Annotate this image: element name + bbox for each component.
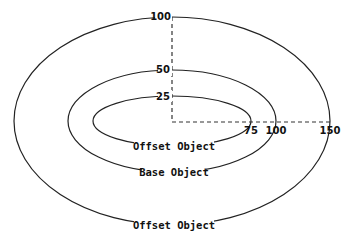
tick-75-horizontal: 75 <box>244 125 258 136</box>
tick-100-vertical: 100 <box>150 11 171 22</box>
tick-25-vertical: 25 <box>156 91 170 102</box>
inner-offset-label: Offset Object <box>133 140 215 152</box>
base-ellipse <box>68 70 276 172</box>
tick-150-horizontal: 150 <box>320 125 341 136</box>
tick-100-horizontal: 100 <box>266 125 287 136</box>
tick-50-vertical: 50 <box>156 64 170 75</box>
outer-offset-label: Offset Object <box>133 219 215 231</box>
offset-diagram: 100 50 25 75 100 150 Offset Object Base … <box>0 0 357 243</box>
base-object-label: Base Object <box>139 166 209 178</box>
